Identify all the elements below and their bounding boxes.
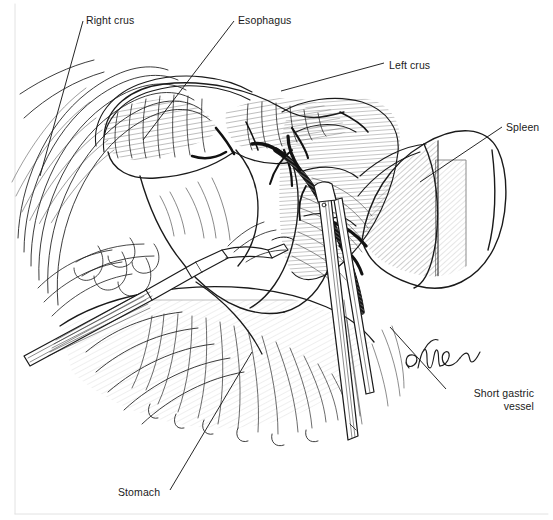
surgical-illustration-figure: Right crus Esophagus Left crus Spleen Sh… (0, 0, 553, 520)
label-spleen: Spleen (506, 121, 539, 134)
artist-signature (406, 339, 480, 368)
leader-short-gastric-vessel (390, 327, 446, 389)
label-esophagus: Esophagus (238, 14, 291, 27)
label-left-crus: Left crus (389, 59, 430, 72)
anatomy-line-art (0, 0, 553, 520)
leader-left-crus (281, 63, 384, 91)
label-short-gastric-vessel: Short gastric vessel (449, 387, 534, 413)
label-stomach: Stomach (118, 486, 160, 499)
label-right-crus: Right crus (86, 14, 134, 27)
